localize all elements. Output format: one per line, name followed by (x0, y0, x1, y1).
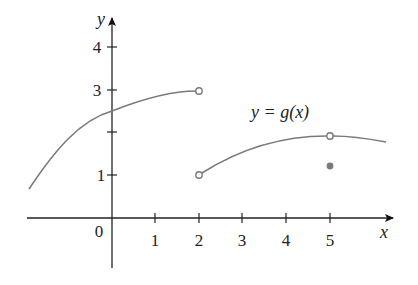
curve-right-piece (202, 136, 327, 173)
x-axis-label: x (379, 222, 388, 242)
x-tick-label-1: 1 (151, 231, 160, 250)
graph-canvas: 1 2 3 4 5 0 1 3 4 x y y = g(x) (0, 0, 418, 285)
curve-right-tail (333, 136, 386, 142)
y-tick-label-4: 4 (93, 38, 102, 57)
function-label: y = g(x) (249, 102, 309, 123)
y-tick-label-3: 3 (93, 81, 102, 100)
x-tick-label-2: 2 (195, 231, 204, 250)
open-endpoint-right-start (196, 172, 202, 178)
filled-point-at-x5 (327, 163, 334, 170)
origin-label: 0 (95, 222, 104, 241)
open-endpoint-left (196, 88, 202, 94)
x-tick-label-3: 3 (238, 231, 247, 250)
y-axis-label: y (95, 9, 105, 29)
x-tick-label-5: 5 (326, 231, 335, 250)
y-tick-label-1: 1 (97, 166, 106, 185)
hole-at-x5 (327, 133, 333, 139)
x-tick-label-4: 4 (282, 231, 291, 250)
